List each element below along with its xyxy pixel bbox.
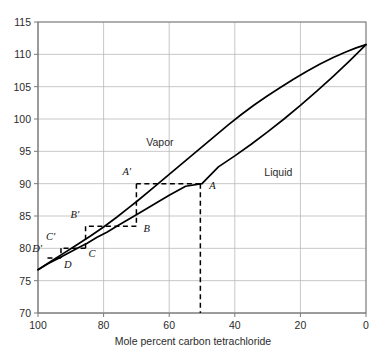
point-label-Dp: D'	[32, 244, 42, 255]
point-label-D: D	[64, 260, 72, 271]
curve-label-vapor: Vapor	[146, 137, 173, 148]
boiling-point-diagram-figure: 707580859095100105110115 100806040200 Va…	[0, 0, 386, 354]
point-label-A: A	[209, 181, 215, 192]
y-tick-label: 85	[0, 211, 31, 222]
y-tick-label: 75	[0, 276, 31, 287]
point-label-Cp: C'	[46, 232, 55, 243]
x-tick-label: 80	[84, 320, 124, 331]
y-tick-label: 110	[0, 49, 31, 60]
x-axis-title: Mole percent carbon tetrachloride	[0, 335, 386, 347]
y-tick-label: 70	[0, 308, 31, 319]
curve-vapor	[38, 45, 366, 270]
y-tick-label: 115	[0, 17, 31, 28]
y-tick-label: 80	[0, 243, 31, 254]
x-tick-label: 20	[280, 320, 320, 331]
x-tick-label: 100	[18, 320, 58, 331]
y-tick-label: 90	[0, 179, 31, 190]
point-label-B: B	[143, 224, 149, 235]
curve-liquid	[38, 45, 366, 270]
point-label-Ap: A'	[122, 167, 131, 178]
curve-label-liquid: Liquid	[264, 167, 292, 178]
x-tick-label: 60	[149, 320, 189, 331]
x-tick-label: 0	[346, 320, 386, 331]
y-tick-label: 100	[0, 114, 31, 125]
point-label-C: C	[89, 249, 96, 260]
point-label-Bp: B'	[71, 210, 80, 221]
x-tick-label: 40	[215, 320, 255, 331]
y-tick-label: 105	[0, 82, 31, 93]
y-tick-label: 95	[0, 146, 31, 157]
chart-canvas	[0, 0, 386, 354]
